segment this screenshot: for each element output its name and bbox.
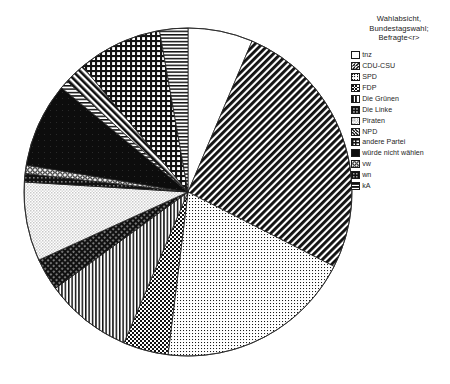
legend-title: Wahlabsicht, Bundestagswahl; Befragte<r> [348, 14, 450, 43]
legend-swatch-grid-icon [351, 138, 360, 146]
legend-item-label: tnz [362, 51, 372, 59]
legend-item[interactable]: kA [351, 181, 450, 191]
legend-item-label: kA [362, 182, 370, 190]
legend-item-label: NPD [362, 128, 377, 136]
legend-item[interactable]: Piraten [351, 115, 450, 125]
legend-item-list: tnzCDU-CSUSPDFDPDie GrünenDie LinkePirat… [348, 50, 450, 192]
legend-swatch-dark-grid-icon [351, 171, 360, 179]
legend-item[interactable]: FDP [351, 83, 450, 93]
legend-swatch-vertical-lines-icon [351, 95, 360, 103]
legend-item-label: Die Grünen [362, 95, 399, 103]
legend-swatch-diagonal-hatch-dense-icon [351, 62, 360, 70]
legend-swatch-circles-icon [351, 160, 360, 168]
legend-item-label: Die Linke [362, 106, 392, 114]
legend-item[interactable]: SPD [351, 72, 450, 82]
legend-item[interactable]: wn [351, 170, 450, 180]
legend-item[interactable]: NPD [351, 126, 450, 136]
legend-swatch-light-dots-icon [351, 117, 360, 125]
legend-item-label: andere Partei [362, 138, 405, 146]
legend-item[interactable]: tnz [351, 50, 450, 60]
legend-item-label: vw [362, 160, 371, 168]
legend-item[interactable]: würde nicht wählen [351, 148, 450, 158]
legend-item-label: FDP [362, 84, 376, 92]
legend-item[interactable]: Die Linke [351, 104, 450, 114]
legend-item[interactable]: CDU-CSU [351, 61, 450, 71]
legend-item-label: CDU-CSU [362, 62, 395, 70]
legend-swatch-horizontal-lines-icon [351, 182, 360, 190]
legend-swatch-checkerboard-icon [351, 84, 360, 92]
pie-slice-group [24, 28, 352, 356]
legend-swatch-diagonal-hatch-wide-icon [351, 128, 360, 136]
legend-swatch-blank-icon [351, 51, 360, 59]
legend-item[interactable]: andere Partei [351, 137, 450, 147]
pie-chart-figure: Wahlabsicht, Bundestagswahl; Befragte<r>… [0, 0, 450, 384]
legend: Wahlabsicht, Bundestagswahl; Befragte<r>… [348, 14, 450, 192]
legend-item-label: SPD [362, 73, 377, 81]
legend-swatch-dark-cross-hatch-icon [351, 106, 360, 114]
legend-swatch-fine-dots-icon [351, 73, 360, 81]
legend-item-label: wn [362, 171, 371, 179]
legend-item[interactable]: vw [351, 159, 450, 169]
legend-swatch-solid-black-icon [351, 149, 360, 157]
legend-item-label: würde nicht wählen [362, 149, 424, 157]
legend-item[interactable]: Die Grünen [351, 94, 450, 104]
legend-item-label: Piraten [362, 117, 385, 125]
